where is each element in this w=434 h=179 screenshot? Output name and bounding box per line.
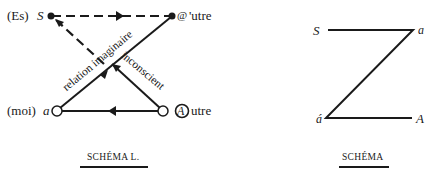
arrow-left-icon (108, 106, 116, 116)
label-s: S (37, 9, 44, 22)
label-a: a (43, 104, 50, 117)
node-autre-circle (158, 106, 168, 116)
label-autre-rest: utre (191, 104, 211, 117)
label-z-a: a (418, 24, 424, 36)
label-z-s: S (313, 24, 320, 37)
label-z-a-prime: á (316, 113, 322, 125)
node-moi-circle (52, 106, 62, 116)
label-moi-prefix: (moi) (7, 104, 36, 117)
caption-schema-z: SCHÉMA (342, 153, 383, 163)
label-autre-small-symbol: @ (177, 10, 187, 21)
caption-schema-l: SCHÉMA L. (87, 153, 139, 163)
caption-underline (339, 166, 389, 168)
label-autre-symbol: A (177, 105, 184, 117)
label-autre-small-rest: 'utre (189, 9, 212, 22)
caption-underline (80, 166, 148, 168)
node-autre-dot (169, 13, 176, 20)
arrow-right-icon (116, 11, 124, 21)
edge-relation-imaginaire (60, 17, 171, 108)
label-z-A: A (416, 112, 424, 125)
node-s-dot (48, 13, 55, 20)
schema-z-path (326, 30, 413, 118)
label-es-prefix: (Es) (7, 9, 29, 22)
